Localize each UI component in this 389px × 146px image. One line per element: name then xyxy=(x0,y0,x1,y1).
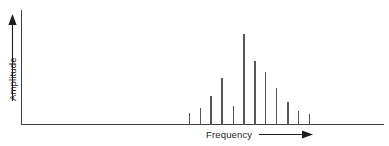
spectrum-plot: Amplitude Frequency xyxy=(0,0,389,146)
spectral-lines xyxy=(189,34,309,125)
spectrum-figure: Amplitude Frequency xyxy=(0,0,389,146)
y-axis-label: Amplitude xyxy=(7,57,18,101)
x-axis-label: Frequency xyxy=(206,129,252,140)
arrow-right-icon xyxy=(259,130,313,138)
